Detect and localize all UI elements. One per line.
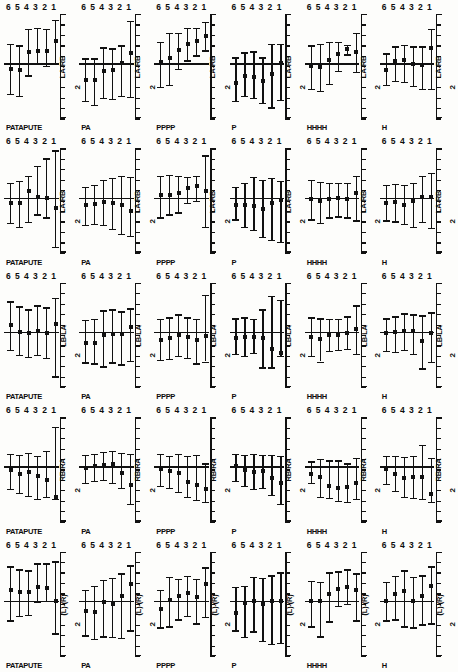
data-point-marker[interactable] xyxy=(54,599,58,603)
data-point-marker[interactable] xyxy=(402,329,406,333)
error-bar[interactable] xyxy=(165,552,174,650)
data-point-marker[interactable] xyxy=(159,60,163,64)
data-point-marker[interactable] xyxy=(168,56,172,60)
data-point-marker[interactable] xyxy=(309,472,313,476)
data-point-marker[interactable] xyxy=(252,75,256,79)
error-bar[interactable] xyxy=(117,283,126,381)
error-bar[interactable] xyxy=(165,148,174,246)
data-point-marker[interactable] xyxy=(345,585,349,589)
data-point-marker[interactable] xyxy=(393,200,397,204)
data-point-marker[interactable] xyxy=(327,58,331,62)
error-bar[interactable] xyxy=(192,552,201,650)
error-bar[interactable] xyxy=(382,14,391,112)
data-point-marker[interactable] xyxy=(261,336,265,340)
data-point-marker[interactable] xyxy=(84,341,88,345)
error-bar[interactable] xyxy=(334,283,343,381)
error-bar[interactable] xyxy=(307,148,316,246)
error-bar[interactable] xyxy=(42,14,51,112)
data-point-marker[interactable] xyxy=(345,485,349,489)
error-bar[interactable] xyxy=(316,14,325,112)
error-bar[interactable] xyxy=(418,14,427,112)
data-point-marker[interactable] xyxy=(252,599,256,603)
data-point-marker[interactable] xyxy=(336,333,340,337)
error-bar[interactable] xyxy=(90,283,99,381)
data-point-marker[interactable] xyxy=(411,329,415,333)
error-bar[interactable] xyxy=(174,283,183,381)
error-bar[interactable] xyxy=(307,417,316,515)
data-point-marker[interactable] xyxy=(429,195,433,199)
data-point-marker[interactable] xyxy=(252,470,256,474)
data-point-marker[interactable] xyxy=(336,587,340,591)
data-point-marker[interactable] xyxy=(129,483,133,487)
error-bar[interactable] xyxy=(343,14,352,112)
error-bar[interactable] xyxy=(258,283,267,381)
data-point-marker[interactable] xyxy=(93,610,97,614)
error-bar[interactable] xyxy=(249,417,258,515)
error-bar[interactable] xyxy=(307,14,316,112)
data-point-marker[interactable] xyxy=(204,582,208,586)
data-point-marker[interactable] xyxy=(270,72,274,76)
data-point-marker[interactable] xyxy=(270,201,274,205)
data-point-marker[interactable] xyxy=(177,594,181,598)
data-point-marker[interactable] xyxy=(18,330,22,334)
data-point-marker[interactable] xyxy=(204,487,208,491)
data-point-marker[interactable] xyxy=(261,79,265,83)
data-point-marker[interactable] xyxy=(279,351,283,355)
error-bar[interactable] xyxy=(231,552,240,650)
error-bar[interactable] xyxy=(267,552,276,650)
error-bar[interactable] xyxy=(42,552,51,650)
error-bar[interactable] xyxy=(42,283,51,381)
data-point-marker[interactable] xyxy=(186,186,190,190)
error-bar[interactable] xyxy=(183,552,192,650)
error-bar[interactable] xyxy=(108,552,117,650)
error-bar[interactable] xyxy=(343,417,352,515)
data-point-marker[interactable] xyxy=(309,64,313,68)
data-point-marker[interactable] xyxy=(270,476,274,480)
data-point-marker[interactable] xyxy=(279,599,283,603)
data-point-marker[interactable] xyxy=(159,607,163,611)
data-point-marker[interactable] xyxy=(120,471,124,475)
data-point-marker[interactable] xyxy=(252,204,256,208)
data-point-marker[interactable] xyxy=(420,195,424,199)
data-point-marker[interactable] xyxy=(9,67,13,71)
data-point-marker[interactable] xyxy=(93,464,97,468)
data-point-marker[interactable] xyxy=(168,193,172,197)
error-bar[interactable] xyxy=(6,417,15,515)
error-bar[interactable] xyxy=(231,148,240,246)
data-point-marker[interactable] xyxy=(186,42,190,46)
error-bar[interactable] xyxy=(343,148,352,246)
error-bar[interactable] xyxy=(174,417,183,515)
error-bar[interactable] xyxy=(42,417,51,515)
data-point-marker[interactable] xyxy=(129,209,133,213)
data-point-marker[interactable] xyxy=(384,201,388,205)
error-bar[interactable] xyxy=(99,417,108,515)
data-point-marker[interactable] xyxy=(54,495,58,499)
error-bar[interactable] xyxy=(192,283,201,381)
error-bar[interactable] xyxy=(33,148,42,246)
error-bar[interactable] xyxy=(90,148,99,246)
data-point-marker[interactable] xyxy=(243,468,247,472)
error-bar[interactable] xyxy=(24,14,33,112)
error-bar[interactable] xyxy=(15,148,24,246)
error-bar[interactable] xyxy=(81,148,90,246)
error-bar[interactable] xyxy=(325,14,334,112)
data-point-marker[interactable] xyxy=(102,200,106,204)
data-point-marker[interactable] xyxy=(36,195,40,199)
error-bar[interactable] xyxy=(343,552,352,650)
data-point-marker[interactable] xyxy=(36,474,40,478)
data-point-marker[interactable] xyxy=(129,51,133,55)
error-bar[interactable] xyxy=(15,14,24,112)
error-bar[interactable] xyxy=(117,148,126,246)
error-bar[interactable] xyxy=(409,283,418,381)
data-point-marker[interactable] xyxy=(195,483,199,487)
error-bar[interactable] xyxy=(382,417,391,515)
error-bar[interactable] xyxy=(6,283,15,381)
error-bar[interactable] xyxy=(267,417,276,515)
error-bar[interactable] xyxy=(192,417,201,515)
error-bar[interactable] xyxy=(258,14,267,112)
data-point-marker[interactable] xyxy=(111,602,115,606)
data-point-marker[interactable] xyxy=(204,334,208,338)
data-point-marker[interactable] xyxy=(252,335,256,339)
error-bar[interactable] xyxy=(316,283,325,381)
data-point-marker[interactable] xyxy=(309,599,313,603)
